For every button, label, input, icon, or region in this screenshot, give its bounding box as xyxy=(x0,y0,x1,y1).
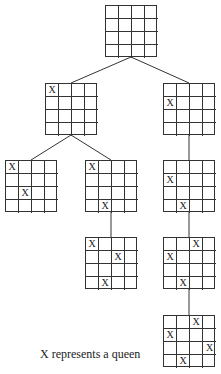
board-cell xyxy=(119,19,132,32)
board-cell xyxy=(125,200,138,213)
board-cell xyxy=(86,251,99,264)
board-cell xyxy=(59,110,72,123)
queen-marker: X xyxy=(86,161,99,174)
queen-marker: X xyxy=(177,355,190,368)
board-cell xyxy=(6,200,19,213)
board-cell xyxy=(112,187,125,200)
board-cell xyxy=(85,110,98,123)
board-cell xyxy=(132,19,145,32)
board-cell xyxy=(203,110,216,123)
board-l2-right: XX xyxy=(163,160,215,212)
board-cell xyxy=(85,97,98,110)
board-cell xyxy=(203,316,216,329)
board-cell xyxy=(85,123,98,136)
board-cell xyxy=(164,355,177,368)
board-cell xyxy=(32,187,45,200)
board-cell xyxy=(203,123,216,136)
board-cell xyxy=(86,277,99,290)
board-cell xyxy=(32,200,45,213)
board-cell xyxy=(145,45,158,58)
board-cell xyxy=(6,187,19,200)
board-cell xyxy=(203,84,216,97)
board-cell xyxy=(177,110,190,123)
board-cell xyxy=(203,264,216,277)
board-cell xyxy=(203,97,216,110)
board-cell xyxy=(145,19,158,32)
board-l1-right: X xyxy=(163,83,215,135)
board-cell xyxy=(106,32,119,45)
board-cell xyxy=(46,97,59,110)
board-cell xyxy=(190,187,203,200)
board-cell xyxy=(190,264,203,277)
board-cell xyxy=(177,174,190,187)
board-cell xyxy=(119,45,132,58)
board-cell xyxy=(99,238,112,251)
board-cell xyxy=(203,161,216,174)
board-cell xyxy=(177,84,190,97)
board-cell xyxy=(45,174,58,187)
board-cell xyxy=(132,6,145,19)
board-cell xyxy=(164,110,177,123)
board-cell xyxy=(190,161,203,174)
board-cell xyxy=(203,238,216,251)
board-cell xyxy=(99,264,112,277)
board-cell xyxy=(145,6,158,19)
board-cell xyxy=(190,110,203,123)
board-cell xyxy=(99,251,112,264)
board-cell xyxy=(190,355,203,368)
board-cell xyxy=(132,32,145,45)
queen-marker: X xyxy=(177,200,190,213)
board-cell xyxy=(190,174,203,187)
board-cell xyxy=(86,174,99,187)
board-cell xyxy=(112,200,125,213)
queen-marker: X xyxy=(164,174,177,187)
board-cell xyxy=(125,174,138,187)
board-cell xyxy=(125,161,138,174)
board-cell xyxy=(177,187,190,200)
board-cell xyxy=(106,45,119,58)
caption: X represents a queen xyxy=(40,347,140,362)
board-cell xyxy=(112,277,125,290)
board-root xyxy=(105,5,157,57)
board-cell xyxy=(86,187,99,200)
board-cell xyxy=(86,200,99,213)
board-cell xyxy=(203,200,216,213)
queen-marker: X xyxy=(19,187,32,200)
queen-marker: X xyxy=(190,238,203,251)
board-cell xyxy=(190,200,203,213)
queen-marker: X xyxy=(112,251,125,264)
board-l2-left: XX xyxy=(5,160,57,212)
board-l3-right: XXX xyxy=(163,237,215,289)
board-cell xyxy=(203,251,216,264)
board-cell xyxy=(19,174,32,187)
board-cell xyxy=(59,123,72,136)
board-cell xyxy=(203,329,216,342)
tree-edge xyxy=(71,135,111,160)
queen-marker: X xyxy=(6,161,19,174)
board-cell xyxy=(177,264,190,277)
board-cell xyxy=(164,316,177,329)
board-cell xyxy=(190,84,203,97)
queen-marker: X xyxy=(86,238,99,251)
board-cell xyxy=(19,200,32,213)
board-cell xyxy=(125,251,138,264)
board-cell xyxy=(59,97,72,110)
queen-marker: X xyxy=(164,329,177,342)
board-cell xyxy=(177,329,190,342)
board-cell xyxy=(32,174,45,187)
board-cell xyxy=(32,161,45,174)
board-cell xyxy=(145,32,158,45)
board-cell xyxy=(164,123,177,136)
board-cell xyxy=(125,277,138,290)
board-cell xyxy=(45,200,58,213)
board-cell xyxy=(164,161,177,174)
board-cell xyxy=(106,6,119,19)
board-cell xyxy=(177,97,190,110)
board-cell xyxy=(112,174,125,187)
tree-edge xyxy=(71,57,131,83)
board-cell xyxy=(164,238,177,251)
board-cell xyxy=(203,174,216,187)
board-cell xyxy=(177,342,190,355)
board-l2-mid: XX xyxy=(85,160,137,212)
board-cell xyxy=(46,123,59,136)
